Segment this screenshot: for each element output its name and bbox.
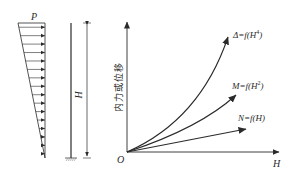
height-label: H (74, 91, 84, 98)
curve-label-displacement-suffix: ) (259, 30, 262, 40)
x-axis-label: H (273, 159, 280, 169)
curve-axial (127, 129, 246, 152)
curve-label-axial: N=f(H) (238, 114, 265, 123)
curve-label-moment-suffix: ) (261, 81, 264, 91)
arrowhead-icon (41, 51, 45, 55)
arrowhead-icon (41, 110, 45, 114)
arrowhead-icon (41, 127, 45, 131)
y-axis-label: 内力或位移 (112, 62, 125, 112)
arrowhead-icon (41, 59, 45, 63)
arrowhead-icon (41, 76, 45, 80)
load-label: P (31, 12, 37, 22)
arrowhead-icon (41, 135, 45, 139)
curve-label-moment-text: M=f(H (232, 81, 258, 91)
arrowhead-icon (41, 34, 45, 38)
arrowhead-icon (41, 84, 45, 88)
distributed-load (18, 23, 45, 158)
origin-label: O (117, 155, 124, 165)
fixed-support-icon (65, 158, 77, 161)
curve-label-axial-text: N=f(H) (238, 113, 265, 123)
arrowhead-icon (41, 118, 45, 122)
arrowhead-icon (41, 93, 45, 97)
arrowhead-icon (41, 101, 45, 105)
curve-label-displacement: Δ=f(H4) (233, 29, 262, 40)
height-dimension (83, 23, 91, 158)
arrowhead-icon (41, 42, 45, 46)
arrowhead-icon (41, 25, 45, 29)
curve-label-moment: M=f(H2) (232, 80, 264, 91)
curve-displacement (127, 37, 228, 152)
load-sloped-edge (18, 23, 45, 158)
graph-curves (127, 37, 246, 152)
curve-label-displacement-text: Δ=f(H (233, 30, 256, 40)
arrowhead-icon (41, 68, 45, 72)
